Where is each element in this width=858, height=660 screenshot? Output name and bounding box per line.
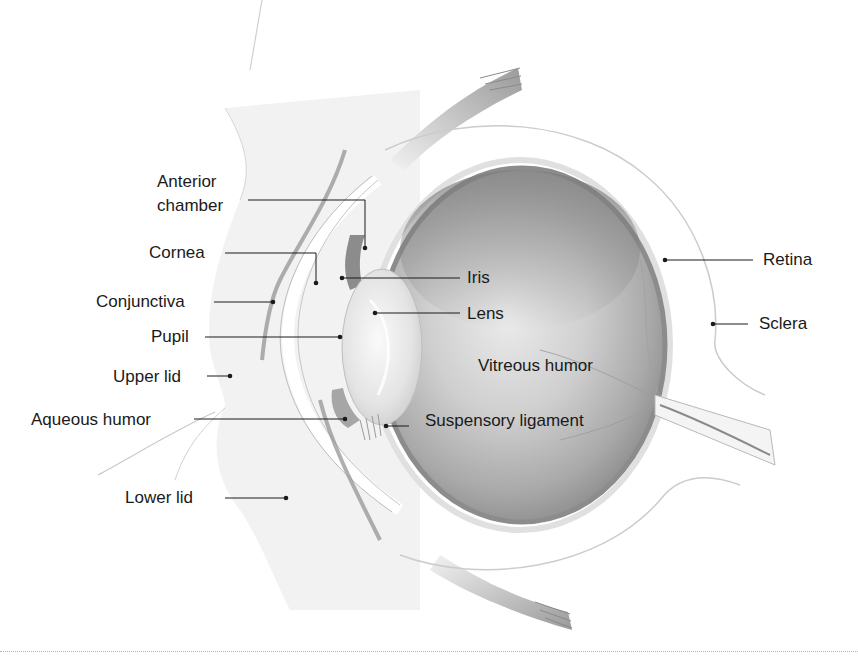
label-anterior-chamber-line2: chamber [157, 196, 223, 215]
optic-nerve [655, 395, 775, 465]
label-cornea: Cornea [149, 243, 205, 262]
label-conjunctiva: Conjunctiva [96, 292, 185, 311]
label-vitreous-humor: Vitreous humor [478, 356, 593, 375]
bottom-divider [0, 651, 858, 652]
top-fiber-line [250, 0, 262, 70]
label-pupil: Pupil [151, 327, 189, 346]
label-lens: Lens [467, 304, 504, 323]
label-iris: Iris [467, 268, 490, 287]
label-retina: Retina [763, 250, 812, 269]
label-sclera: Sclera [759, 314, 807, 333]
label-suspensory-ligament: Suspensory ligament [425, 411, 584, 430]
lens [342, 269, 422, 425]
eye-anatomy-diagram [0, 0, 858, 660]
label-aqueous-humor: Aqueous humor [31, 410, 151, 429]
label-anterior-chamber-line1: Anterior [157, 172, 217, 191]
lower-eye-muscle [430, 555, 572, 630]
label-upper-lid: Upper lid [113, 367, 181, 386]
label-lower-lid: Lower lid [125, 488, 193, 507]
